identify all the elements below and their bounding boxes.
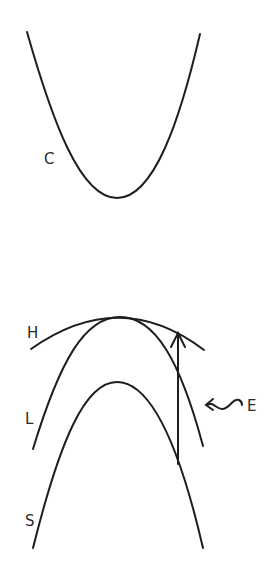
photon-wavy-arrow [206,399,242,410]
label-h: H [27,324,38,342]
label-c: C [44,150,54,168]
label-e: E [247,397,256,415]
label-l: L [25,410,34,428]
transition-arrow [171,333,185,464]
conduction-band-curve [27,32,200,198]
band-diagram: C H L S E [0,0,274,578]
label-s: S [25,512,35,530]
